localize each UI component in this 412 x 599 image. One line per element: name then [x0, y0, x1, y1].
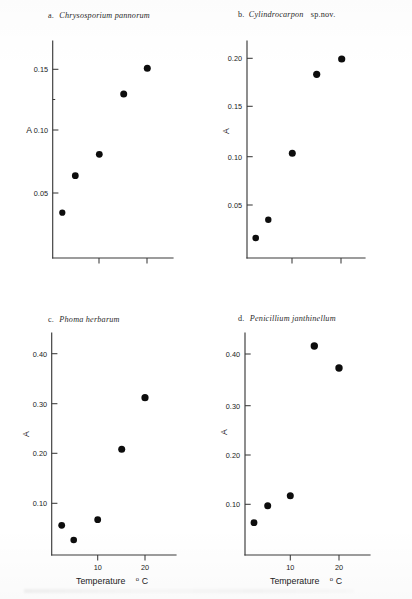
data-point — [252, 235, 259, 242]
panel-a: a. Chrysosporium pannorum 0.15 0.10 0.05… — [26, 11, 173, 264]
panel-d-title: d. Penicillium janthinellum — [238, 314, 336, 323]
panel-d-x-axis-label: Temperature o C — [270, 573, 343, 587]
panel-a-ytick-label-2: 0.15 — [34, 65, 48, 74]
data-point — [313, 71, 320, 78]
panel-b-ytick-label-1: 0.10 — [228, 153, 242, 162]
panel-d-ytick-label-3: 0.40 — [226, 350, 240, 359]
panel-c-ytick-label-1: 0.20 — [33, 449, 47, 458]
panel-b-title-suffix: sp.nov. — [311, 10, 336, 19]
panel-b-title-index: b. — [238, 10, 245, 19]
data-point — [335, 364, 342, 371]
panel-b-title-species: Cylindrocarpon — [249, 10, 304, 19]
panel-d-datapoints — [251, 342, 343, 526]
degree-icon: o — [330, 576, 334, 582]
panel-c-x-axis-label: Temperature o C — [76, 573, 149, 587]
data-point — [251, 519, 258, 526]
panel-d-x-axis-unit: C — [336, 576, 343, 586]
panel-b-title: b. Cylindrocarpon sp.nov. — [238, 10, 335, 19]
data-point — [287, 492, 294, 499]
panel-c: c. Phoma herbarum 0.40 0.30 0.20 0.10 A … — [21, 315, 176, 586]
panel-a-title-index: a. — [48, 11, 54, 20]
data-point — [289, 150, 296, 157]
panel-c-xtick-label-0: 10 — [94, 563, 102, 572]
data-point — [70, 537, 77, 544]
panel-c-datapoints — [58, 394, 148, 543]
data-point — [96, 151, 103, 158]
panel-c-ytick-label-0: 0.10 — [33, 499, 47, 508]
panel-b-ytick-label-3: 0.20 — [228, 54, 242, 63]
panel-a-datapoints — [59, 65, 151, 216]
panel-b: b. Cylindrocarpon sp.nov. 0.20 0.15 0.10… — [221, 10, 365, 264]
data-point — [59, 210, 65, 216]
panel-d: d. Penicillium janthinellum 0.40 0.30 0.… — [219, 314, 370, 586]
panel-c-ytick-label-3: 0.40 — [33, 350, 47, 359]
data-point — [144, 65, 151, 72]
panel-a-ytick-label-1: 0.10 — [34, 126, 48, 135]
panel-c-title-species: Phoma herbarum — [58, 315, 119, 324]
data-point — [120, 91, 127, 98]
data-point — [338, 55, 345, 62]
panel-d-x-axis-label-text: Temperature — [270, 576, 319, 586]
panel-d-ytick-label-0: 0.10 — [226, 500, 240, 509]
panel-b-ytick-label-0: 0.05 — [228, 201, 242, 210]
panel-d-y-axis-label: A — [219, 429, 229, 435]
data-point — [265, 217, 271, 223]
data-point — [118, 446, 125, 453]
panel-a-ytick-label-0: 0.05 — [34, 189, 48, 198]
data-point — [264, 502, 271, 509]
data-point — [94, 516, 101, 523]
panel-c-x-axis-unit: C — [142, 576, 149, 586]
panel-c-ytick-label-2: 0.30 — [33, 400, 47, 409]
panel-a-title-species: Chrysosporium pannorum — [59, 11, 150, 20]
panel-d-title-species: Penicillium janthinellum — [249, 314, 336, 323]
panel-b-ytick-label-2: 0.15 — [228, 102, 242, 111]
panel-b-y-axis-label: A — [221, 128, 231, 134]
panel-d-xtick-label-1: 20 — [335, 563, 343, 572]
data-point — [58, 522, 65, 529]
degree-icon: o — [136, 576, 140, 582]
data-point — [72, 172, 79, 179]
panel-c-xtick-label-1: 20 — [141, 563, 149, 572]
data-point — [141, 394, 148, 401]
scatter-plot-figure: a. Chrysosporium pannorum 0.15 0.10 0.05… — [0, 0, 412, 599]
data-point — [311, 342, 318, 349]
panel-d-ytick-label-1: 0.20 — [226, 451, 240, 460]
panel-c-y-axis-label: A — [21, 431, 31, 437]
panel-c-x-axis-label-text: Temperature — [76, 576, 125, 586]
panel-a-title: a. Chrysosporium pannorum — [48, 11, 150, 20]
panel-c-title-index: c. — [48, 315, 54, 324]
panel-c-title: c. Phoma herbarum — [48, 315, 120, 324]
panel-b-datapoints — [252, 55, 345, 241]
panel-d-ytick-label-2: 0.30 — [226, 402, 240, 411]
panel-d-xtick-label-0: 10 — [286, 563, 294, 572]
panel-d-title-index: d. — [238, 314, 245, 323]
panel-a-y-axis-label: A — [26, 125, 32, 135]
